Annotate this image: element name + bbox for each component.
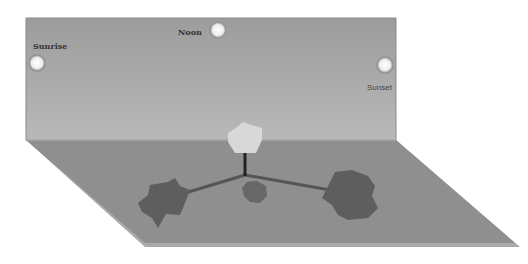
noon-label: Noon [178, 27, 202, 37]
floor-plane [26, 140, 515, 243]
sun-shadow-diagram [0, 0, 528, 264]
sunset-sun-icon [375, 55, 395, 75]
noon-sun-icon [208, 20, 228, 40]
sunrise-label: Sunrise [33, 41, 67, 51]
sunrise-sun-icon [27, 53, 47, 73]
sunset-label: Sunset [367, 83, 392, 92]
